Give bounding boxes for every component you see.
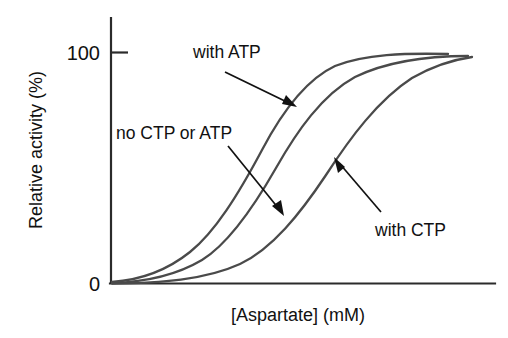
chart-figure: 100 0 Relative activity (%) [Aspartate] … xyxy=(0,0,508,338)
x-axis-title: [Aspartate] (mM) xyxy=(231,305,365,325)
y-tick-label-0: 0 xyxy=(89,273,100,295)
annotation-arrow-with-atp xyxy=(225,72,291,104)
y-axis-title: Relative activity (%) xyxy=(26,71,46,229)
aspartate-activity-plot: 100 0 Relative activity (%) [Aspartate] … xyxy=(0,0,508,338)
annotation-label-no-ctp-or-atp: no CTP or ATP xyxy=(116,123,232,143)
annotation-label-with-atp: with ATP xyxy=(192,42,261,62)
curve-with-ctp xyxy=(112,57,472,284)
annotation-label-with-ctp: with CTP xyxy=(374,220,446,240)
y-tick-label-100: 100 xyxy=(67,42,100,64)
annotation-arrow-with-ctp xyxy=(340,164,381,212)
annotation-arrowhead-with-ctp xyxy=(334,157,345,173)
curve-no-ctp-or-atp xyxy=(112,56,468,283)
